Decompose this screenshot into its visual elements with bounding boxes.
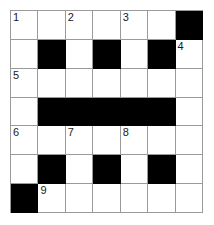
cell-number: 5 [13, 69, 19, 81]
crossword-open-cell[interactable] [121, 69, 148, 98]
crossword-open-cell[interactable]: 4 [176, 40, 203, 69]
crossword-open-cell[interactable] [93, 184, 120, 213]
crossword-open-cell[interactable] [93, 126, 120, 155]
crossword-open-cell[interactable]: 2 [66, 11, 93, 40]
crossword-open-cell[interactable] [11, 40, 38, 69]
crossword-block-cell [38, 98, 65, 127]
crossword-open-cell[interactable] [93, 11, 120, 40]
crossword-open-cell[interactable]: 6 [11, 126, 38, 155]
crossword-open-cell[interactable] [176, 184, 203, 213]
crossword-puzzle: 123456789 [0, 0, 214, 225]
cell-number: 1 [13, 11, 19, 23]
crossword-open-cell[interactable] [38, 11, 65, 40]
crossword-open-cell[interactable]: 9 [38, 184, 65, 213]
crossword-open-cell[interactable] [148, 184, 175, 213]
crossword-open-cell[interactable] [121, 155, 148, 184]
crossword-block-cell [176, 11, 203, 40]
crossword-block-cell [93, 155, 120, 184]
crossword-block-cell [148, 40, 175, 69]
crossword-block-cell [93, 40, 120, 69]
crossword-grid: 123456789 [10, 10, 203, 213]
crossword-open-cell[interactable]: 5 [11, 69, 38, 98]
crossword-open-cell[interactable]: 8 [121, 126, 148, 155]
cell-number: 9 [40, 184, 46, 196]
crossword-block-cell [148, 98, 175, 127]
crossword-block-cell [38, 40, 65, 69]
crossword-open-cell[interactable] [11, 155, 38, 184]
crossword-open-cell[interactable] [66, 155, 93, 184]
crossword-open-cell[interactable] [38, 126, 65, 155]
cell-number: 3 [123, 11, 129, 23]
crossword-open-cell[interactable]: 7 [66, 126, 93, 155]
cell-number: 7 [68, 126, 74, 138]
crossword-open-cell[interactable] [66, 40, 93, 69]
crossword-block-cell [66, 98, 93, 127]
crossword-open-cell[interactable]: 1 [11, 11, 38, 40]
crossword-block-cell [93, 98, 120, 127]
cell-number: 6 [13, 126, 19, 138]
crossword-open-cell[interactable] [11, 98, 38, 127]
crossword-block-cell [38, 155, 65, 184]
crossword-block-cell [11, 184, 38, 213]
crossword-open-cell[interactable] [66, 184, 93, 213]
crossword-open-cell[interactable] [176, 126, 203, 155]
crossword-open-cell[interactable] [176, 69, 203, 98]
crossword-open-cell[interactable] [176, 98, 203, 127]
crossword-open-cell[interactable] [66, 69, 93, 98]
cell-number: 4 [178, 40, 184, 52]
crossword-open-cell[interactable] [176, 155, 203, 184]
crossword-open-cell[interactable] [148, 11, 175, 40]
crossword-open-cell[interactable] [121, 184, 148, 213]
crossword-open-cell[interactable] [121, 40, 148, 69]
cell-number: 8 [123, 126, 129, 138]
crossword-open-cell[interactable] [38, 69, 65, 98]
crossword-open-cell[interactable] [148, 126, 175, 155]
crossword-open-cell[interactable] [148, 69, 175, 98]
crossword-block-cell [121, 98, 148, 127]
crossword-open-cell[interactable] [93, 69, 120, 98]
crossword-open-cell[interactable]: 3 [121, 11, 148, 40]
crossword-block-cell [148, 155, 175, 184]
cell-number: 2 [68, 11, 74, 23]
